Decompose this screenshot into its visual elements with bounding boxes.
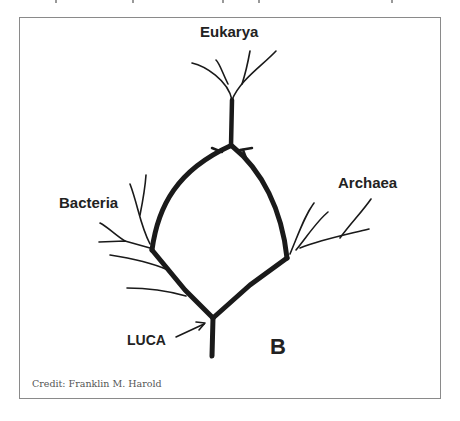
label-eukarya: Eukarya [200,23,258,40]
archaea-twigs [290,203,314,254]
label-archaea: Archaea [338,174,397,191]
label-bacteria: Bacteria [59,194,118,211]
label-luca: LUCA [127,332,166,348]
archaea-main-branch [213,258,287,318]
figure-credit: Credit: Franklin M. Harold [32,378,162,389]
luca-arrow [176,324,204,337]
bacteria-eukarya-arc [152,146,230,250]
luca-trunk [212,318,213,356]
bacteria-main-branch [152,250,213,318]
archaea-eukarya-arc [232,146,287,258]
eukarya-stem [231,100,232,146]
panel-letter: B [270,334,286,360]
